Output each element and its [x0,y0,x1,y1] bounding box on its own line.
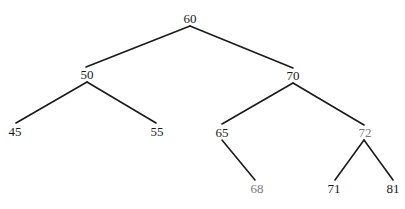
node-70: 70 [287,69,300,82]
node-68: 68 [251,182,264,195]
edge-50-45 [16,82,87,123]
node-81: 81 [387,182,400,195]
node-60: 60 [184,12,197,25]
node-50: 50 [81,68,94,81]
edge-50-55 [87,82,156,123]
edge-72-81 [364,140,393,180]
edge-65-68 [222,140,255,180]
node-55: 55 [151,125,164,138]
edge-72-71 [335,140,364,180]
tree-edges [0,0,405,209]
node-72: 72 [359,126,372,139]
edge-60-50 [86,26,190,67]
binary-tree-diagram: 60 50 70 45 55 65 72 68 71 81 [0,0,405,209]
node-65: 65 [216,126,229,139]
edge-60-70 [190,26,293,68]
node-45: 45 [9,125,22,138]
edge-70-65 [222,83,293,124]
node-71: 71 [328,182,341,195]
edge-70-72 [293,83,364,125]
